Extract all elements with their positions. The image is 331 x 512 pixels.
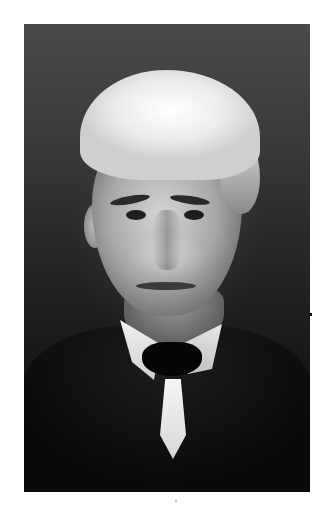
mouth: [136, 282, 196, 290]
tie-knot: [142, 342, 202, 376]
edge-speck: [309, 313, 312, 316]
white-hair: [80, 70, 260, 180]
nose: [152, 210, 182, 270]
left-eye: [126, 210, 146, 220]
bottom-speck: [175, 500, 177, 502]
right-eye: [184, 210, 204, 220]
